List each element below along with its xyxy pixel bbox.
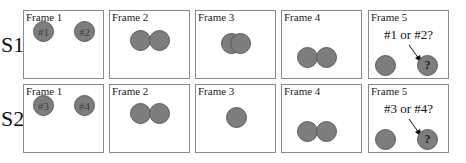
ball-4: #4 (74, 95, 95, 116)
ball (375, 129, 396, 150)
ball (149, 103, 170, 124)
s1-frame-2: Frame 2 (109, 10, 190, 79)
s1-frame-5: Frame 5 #1 or #2? ? (368, 10, 449, 79)
ball (316, 121, 337, 142)
frame-title: Frame 4 (284, 11, 320, 23)
ball-label: #1 (38, 26, 49, 38)
frame-title: Frame 2 (112, 85, 148, 97)
s2-frame-5: Frame 5 #3 or #4? ? (368, 84, 449, 153)
unknown-label: ? (425, 132, 431, 147)
frame-title: Frame 3 (198, 85, 234, 97)
ball (316, 47, 337, 68)
row-label-s2: S2 (1, 108, 24, 130)
unknown-ball: ? (417, 55, 438, 76)
unknown-ball: ? (417, 129, 438, 150)
frame-title: Frame 3 (198, 11, 234, 23)
ball (130, 30, 151, 51)
ball-2: #2 (74, 21, 95, 42)
s2-frame-2: Frame 2 (109, 84, 190, 153)
unknown-label: ? (425, 58, 431, 73)
s2-frame-1: Frame 1 #3 #4 (23, 84, 104, 153)
s1-frame-3: Frame 3 (195, 10, 276, 79)
ball (375, 55, 396, 76)
row-label-s1: S1 (1, 34, 24, 56)
s2-frame-3: Frame 3 (195, 84, 276, 153)
ball (130, 103, 151, 124)
ball-label: #2 (79, 26, 90, 38)
ball-1: #1 (33, 21, 54, 42)
s1-frame-1: Frame 1 #1 #2 (23, 10, 104, 79)
ball-3: #3 (33, 95, 54, 116)
ball (226, 107, 247, 128)
frame-title: Frame 2 (112, 11, 148, 23)
ball (297, 121, 318, 142)
s1-frame-4: Frame 4 (281, 10, 362, 79)
ball (149, 30, 170, 51)
ball-label: #3 (38, 100, 49, 112)
s2-frame-4: Frame 4 (281, 84, 362, 153)
ball-label: #4 (79, 100, 90, 112)
ball (297, 47, 318, 68)
frame-title: Frame 4 (284, 85, 320, 97)
ball (230, 33, 251, 54)
